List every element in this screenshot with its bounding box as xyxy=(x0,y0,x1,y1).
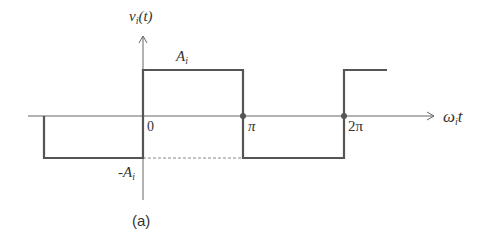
tick-pi: π xyxy=(248,118,256,134)
figure-caption: (a) xyxy=(132,212,150,229)
x-axis-label: ωit xyxy=(443,107,464,127)
square-wave-signal xyxy=(44,70,387,158)
tick-zero: 0 xyxy=(147,119,154,134)
tick-two-pi: 2π xyxy=(348,118,364,134)
amplitude-negative-label: -Ai xyxy=(118,164,135,182)
y-axis-label: vi(t) xyxy=(129,8,153,26)
amplitude-positive-label: Ai xyxy=(175,48,188,66)
square-wave-diagram: vi(t) ωit Ai -Ai 0 π 2π (a) xyxy=(0,0,488,245)
two-pi-marker xyxy=(341,113,347,119)
pi-marker xyxy=(240,113,246,119)
